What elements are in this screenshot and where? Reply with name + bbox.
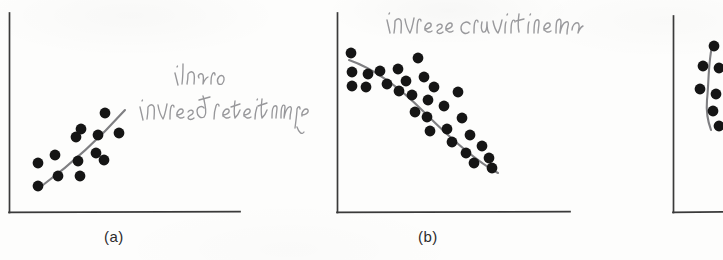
data-point: [99, 155, 110, 166]
data-point: [93, 130, 104, 141]
data-point: [484, 153, 495, 164]
data-point: [469, 158, 480, 169]
panel-c: [673, 16, 723, 213]
data-point: [429, 82, 440, 93]
data-point: [382, 79, 393, 90]
data-point: [439, 101, 450, 112]
panel-a-handwritten-annotation: [140, 64, 308, 133]
data-point: [425, 126, 436, 137]
data-point: [347, 81, 358, 92]
data-point: [422, 112, 433, 123]
data-point: [419, 72, 430, 83]
data-point: [73, 156, 84, 167]
data-point: [75, 171, 86, 182]
data-point: [346, 48, 357, 59]
panel-b-handwritten-annotation: [387, 13, 583, 34]
data-point: [487, 163, 498, 174]
panel-a-datapoints: [33, 108, 125, 192]
data-point: [53, 171, 64, 182]
panel-a-x-axis: [9, 212, 240, 213]
panel-b: [337, 13, 583, 213]
data-point: [410, 107, 421, 118]
panel-a-caption: (a): [104, 228, 124, 245]
data-point: [413, 53, 424, 64]
data-point: [407, 90, 418, 101]
data-point: [698, 61, 709, 72]
panel-c-trendline: [707, 42, 713, 130]
panel-a: [9, 13, 308, 213]
data-point: [100, 108, 111, 119]
data-point: [714, 63, 723, 74]
data-point: [50, 150, 61, 161]
data-point: [33, 158, 44, 169]
data-point: [708, 106, 719, 117]
data-point: [477, 141, 488, 152]
data-point: [76, 124, 87, 135]
data-point: [394, 86, 405, 97]
data-point: [442, 124, 453, 135]
data-point: [33, 181, 44, 192]
data-point: [709, 41, 720, 52]
data-point: [363, 69, 374, 80]
data-point: [457, 113, 468, 124]
panel-b-caption: (b): [418, 228, 438, 245]
data-point: [465, 130, 476, 141]
data-point: [375, 66, 386, 77]
data-point: [423, 95, 434, 106]
data-point: [393, 64, 404, 75]
data-point: [447, 137, 458, 148]
data-point: [361, 82, 372, 93]
data-point: [711, 89, 722, 100]
data-point: [114, 128, 125, 139]
data-point: [695, 84, 706, 95]
data-point: [453, 87, 464, 98]
data-point: [714, 121, 723, 132]
data-point: [461, 148, 472, 159]
scatterplot-figure: [0, 0, 723, 260]
data-point: [347, 67, 358, 78]
data-point: [401, 76, 412, 87]
panel-b-x-axis: [337, 212, 570, 213]
